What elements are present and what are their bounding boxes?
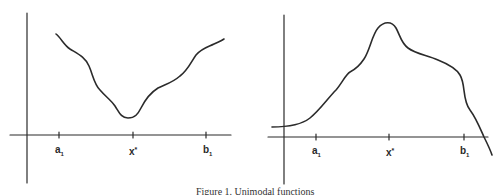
left-curve	[56, 34, 224, 118]
figure-caption: Figure 1. Unimodal functions	[196, 186, 314, 195]
label-subscript: 1	[466, 152, 469, 158]
left-label-xstar: x*	[129, 145, 137, 157]
label-subscript: 1	[61, 151, 64, 157]
label-subscript: 1	[209, 151, 212, 157]
right-label-a1: a1	[312, 146, 321, 160]
label-superscript: *	[135, 146, 138, 153]
right-label-b1: b1	[460, 146, 469, 160]
label-subscript: 1	[318, 152, 321, 158]
right-curve	[272, 23, 492, 155]
left-label-a1: a1	[55, 145, 64, 159]
label-superscript: *	[392, 147, 395, 154]
right-panel	[268, 15, 492, 184]
left-label-b1: b1	[203, 145, 212, 159]
figure: a1 x* b1 a1 x* b1 Figure 1. Unimodal fun…	[0, 0, 504, 195]
left-panel	[10, 13, 231, 183]
plots-canvas	[0, 0, 504, 195]
right-label-xstar: x*	[386, 146, 394, 158]
